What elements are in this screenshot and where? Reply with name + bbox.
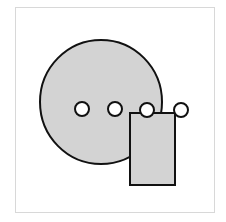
small-circle-1 (75, 102, 89, 116)
small-circle-4 (174, 103, 188, 117)
small-circle-2 (108, 102, 122, 116)
small-circle-3 (140, 103, 154, 117)
rectangle-shape (130, 113, 175, 185)
diagram-canvas (0, 0, 226, 222)
